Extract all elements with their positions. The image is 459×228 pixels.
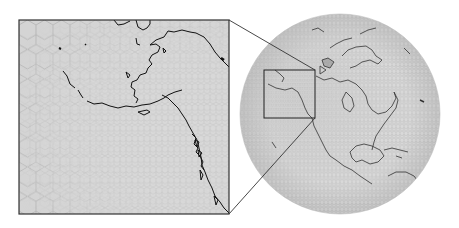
zoom-inset [19,20,229,214]
mesh-figure [0,0,459,228]
